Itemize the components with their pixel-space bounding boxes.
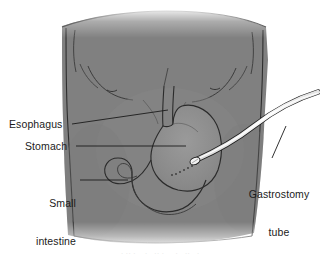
label-esophagus: Esophagus (9, 118, 62, 131)
label-small-intestine: Small intestine (14, 172, 76, 258)
suture-dot (175, 173, 177, 175)
label-small-intestine-line1: Small (14, 197, 76, 210)
label-gastrostomy-tube-line1: Gastrostomy (243, 188, 315, 201)
top-edge-fade (60, 8, 272, 38)
label-gastrostomy-tube-line2: tube (243, 226, 315, 239)
suture-dot (183, 169, 185, 171)
suture-dot (171, 174, 173, 176)
cropped-caption: · ·· · · ·· · · ·· · (0, 249, 320, 258)
label-stomach: Stomach (25, 140, 67, 153)
gastrostomy-tube-figure: Esophagus Stomach Small intestine Gastro… (0, 0, 320, 258)
label-small-intestine-line2: intestine (14, 235, 76, 248)
leader-gastrostomy-tube (272, 126, 286, 158)
suture-dot (191, 165, 193, 167)
suture-dot (187, 167, 189, 169)
suture-dot (179, 171, 181, 173)
label-gastrostomy-tube: Gastrostomy tube (243, 163, 315, 258)
bottom-edge-fade (60, 222, 272, 248)
